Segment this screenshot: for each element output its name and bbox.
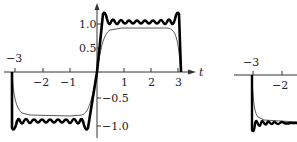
x-tick-label: −3 <box>243 56 259 69</box>
x-tick-label: −2 <box>33 76 49 89</box>
x-tick-label: 2 <box>148 76 155 89</box>
x-tick-label: 3 <box>175 76 182 89</box>
x-tick-label: −2 <box>272 79 288 92</box>
fourier-figure: −3 −2 −1 1 2 3 t 1.0 0.5 −0.5 −1.0 −3 −2 <box>0 0 297 142</box>
y-tick-label: 1.0 <box>79 18 97 31</box>
chart-2: −3 −2 <box>234 56 297 131</box>
x-axis-label: t <box>199 66 204 79</box>
x-tick-label: 1 <box>121 76 128 89</box>
x-tick-label: −3 <box>6 52 22 65</box>
x-axis-arrow-icon <box>188 70 196 75</box>
y-tick-label: −1.0 <box>102 120 129 133</box>
x-tick-label: −1 <box>60 76 76 89</box>
y-tick-label: −0.5 <box>102 92 129 105</box>
y-tick-label: 0.5 <box>79 42 97 55</box>
y-axis-arrow-icon <box>95 3 100 10</box>
chart-1: −3 −2 −1 1 2 3 t 1.0 0.5 −0.5 −1.0 <box>4 3 204 138</box>
